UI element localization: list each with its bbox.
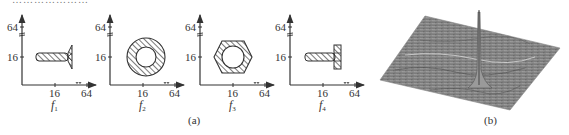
- x-tick-64: 64: [349, 87, 361, 99]
- label-f3: f3: [229, 98, 236, 113]
- y-tick-16: 16: [275, 51, 287, 63]
- label-f2: f2: [139, 98, 146, 113]
- surface-plot-b: [380, 10, 560, 110]
- y-tick-16: 16: [7, 51, 19, 63]
- feature-labels: f1 f2 f3 f4: [51, 98, 326, 113]
- y-tick-64: 64: [275, 21, 287, 33]
- y-tick-16: 16: [185, 51, 197, 63]
- x-tick-64: 64: [259, 87, 271, 99]
- y-tick-64: 64: [95, 21, 107, 33]
- subplot-f3: [197, 15, 274, 87]
- t-bolt-shape: [305, 45, 341, 69]
- x-axis-break: [76, 82, 81, 84]
- caption-b: (b): [484, 114, 497, 127]
- y-tick-64: 64: [7, 21, 19, 33]
- y-tick-64: 64: [185, 21, 197, 33]
- x-tick-64: 64: [169, 87, 181, 99]
- subplot-f1: [19, 15, 96, 87]
- subplot-f2: [107, 15, 184, 87]
- label-f4: f4: [319, 98, 326, 113]
- hex-nut-shape: [214, 41, 252, 73]
- caption-a: (a): [188, 114, 201, 127]
- y-tick-16: 16: [95, 51, 107, 63]
- label-f1: f1: [51, 98, 58, 113]
- subplot-f4: [287, 15, 364, 87]
- washer-ring-shape: [127, 38, 165, 76]
- countersunk-screw-shape: [36, 45, 72, 69]
- surface-plane: [380, 16, 560, 110]
- figure-canvas: 64 16 16 64 64 16 16 64 64 16 16 64 64 1…: [0, 0, 569, 135]
- x-tick-64: 64: [81, 87, 93, 99]
